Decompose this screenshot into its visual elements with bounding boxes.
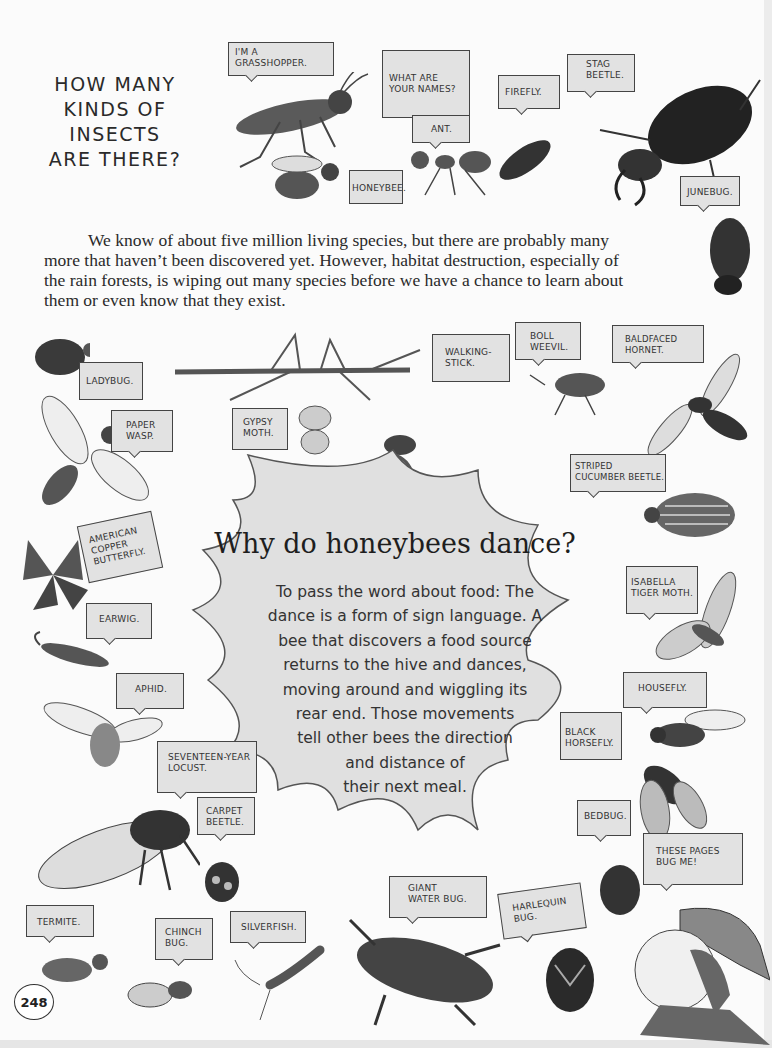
boy-illustration bbox=[620, 905, 770, 1045]
bubble-text: JUNEBUG. bbox=[687, 187, 733, 197]
speech-bubble-seventeen-year-locust: SEVENTEEN-YEAR LOCUST. bbox=[157, 741, 257, 793]
bubble-text: EARWIG. bbox=[99, 614, 140, 624]
speech-bubble-chinch-bug: CHINCH BUG. bbox=[155, 918, 213, 960]
junebug-illustration bbox=[695, 205, 765, 305]
speech-bubble-walking-stick: WALKING- STICK. bbox=[432, 334, 510, 382]
feature-body-line: returns to the hive and dances, bbox=[245, 653, 565, 677]
feature-body-line: bee that discovers a food source bbox=[245, 629, 565, 653]
feature-title: Why do honeybees dance? bbox=[200, 528, 590, 559]
bubble-text: ANT. bbox=[431, 124, 452, 134]
harlequin-bug-illustration bbox=[525, 930, 615, 1030]
page-edge-right bbox=[764, 0, 772, 1048]
walking-stick-illustration bbox=[170, 330, 430, 410]
speech-bubble-grasshopper: I'M A GRASSHOPPER. bbox=[228, 42, 334, 76]
speech-bubble-boy-these-pages: THESE PAGES BUG ME! bbox=[643, 833, 743, 885]
speech-bubble-junebug: JUNEBUG. bbox=[680, 176, 740, 206]
speech-bubble-gypsy-moth: GYPSY MOTH. bbox=[232, 408, 288, 450]
bubble-text: TERMITE. bbox=[37, 917, 81, 927]
bubble-text: STAG BEETLE. bbox=[586, 59, 624, 80]
speech-bubble-housefly: HOUSEFLY. bbox=[623, 672, 707, 708]
bubble-text: BALDFACED HORNET. bbox=[625, 334, 677, 355]
bubble-text: HONEYBEE. bbox=[352, 183, 406, 193]
feature-body-line: and distance of bbox=[245, 751, 565, 775]
speech-bubble-question: WHAT ARE YOUR NAMES? bbox=[382, 50, 470, 118]
feature-body-line: their next meal. bbox=[245, 775, 565, 799]
speech-bubble-termite: TERMITE. bbox=[26, 905, 94, 937]
bubble-text: GYPSY MOTH. bbox=[243, 417, 274, 438]
heading-line: INSECTS bbox=[30, 122, 200, 147]
speech-bubble-striped-cucumber-beetle: STRIPED CUCUMBER BEETLE. bbox=[570, 454, 666, 492]
speech-bubble-firefly: FIREFLY. bbox=[498, 75, 560, 109]
boll-weevil-illustration bbox=[525, 360, 615, 420]
speech-bubble-carpet-beetle: CARPET BEETLE. bbox=[197, 797, 255, 835]
bubble-text: THESE PAGES BUG ME! bbox=[656, 846, 720, 867]
speech-bubble-isabella-tiger-moth: ISABELLA TIGER MOTH. bbox=[626, 566, 698, 614]
speech-bubble-boll-weevil: BOLL WEEVIL. bbox=[515, 322, 581, 360]
feature-body: To pass the word about food: The dance i… bbox=[245, 580, 565, 800]
bubble-text: SILVERFISH. bbox=[241, 922, 297, 932]
feature-body-line: dance is a form of sign language. A bbox=[245, 604, 565, 628]
speech-bubble-silverfish: SILVERFISH. bbox=[230, 911, 306, 943]
bubble-text: BLACK HORSEFLY. bbox=[565, 727, 614, 748]
bubble-text: I'M A GRASSHOPPER. bbox=[235, 47, 307, 68]
bubble-text: GIANT WATER BUG. bbox=[408, 883, 467, 904]
bubble-text: STRIPED CUCUMBER BEETLE. bbox=[575, 461, 664, 482]
bubble-text: HARLEQUIN BUG. bbox=[512, 896, 568, 924]
speech-bubble-bedbug: BEDBUG. bbox=[577, 800, 631, 836]
speech-bubble-paper-wasp: PAPER WASP. bbox=[111, 410, 173, 452]
bubble-text: WHAT ARE YOUR NAMES? bbox=[389, 73, 456, 94]
speech-bubble-ant: ANT. bbox=[412, 115, 470, 143]
speech-bubble-earwig: EARWIG. bbox=[86, 603, 152, 639]
speech-bubble-ladybug: LADYBUG. bbox=[79, 362, 143, 400]
intro-paragraph: We know of about five million living spe… bbox=[44, 230, 644, 310]
bubble-text: AMERICAN COPPER BUTTERFLY. bbox=[88, 525, 147, 567]
heading-line: ARE THERE? bbox=[30, 147, 200, 172]
speech-bubble-baldfaced-hornet: BALDFACED HORNET. bbox=[612, 325, 704, 363]
speech-bubble-stag-beetle: STAG BEETLE. bbox=[567, 54, 635, 92]
speech-bubble-aphid: APHID. bbox=[116, 673, 184, 709]
seventeen-year-locust-illustration bbox=[30, 800, 200, 900]
feature-body-line: tell other bees the direction bbox=[245, 726, 565, 750]
american-copper-butterfly-illustration bbox=[18, 535, 88, 615]
feature-body-line: To pass the word about food: The bbox=[245, 580, 565, 604]
bubble-text: CARPET BEETLE. bbox=[206, 806, 244, 827]
bubble-text: SEVENTEEN-YEAR LOCUST. bbox=[168, 752, 250, 773]
feature-body-line: rear end. Those movements bbox=[245, 702, 565, 726]
page-number: 248 bbox=[14, 984, 54, 1020]
bubble-text: PAPER WASP. bbox=[126, 420, 155, 441]
heading-line: KINDS OF bbox=[30, 97, 200, 122]
ant-illustration bbox=[395, 140, 505, 200]
speech-bubble-honeybee: HONEYBEE. bbox=[349, 170, 403, 204]
speech-bubble-black-horsefly: BLACK HORSEFLY. bbox=[560, 712, 622, 760]
bubble-text: BEDBUG. bbox=[584, 811, 627, 821]
bubble-text: ISABELLA TIGER MOTH. bbox=[631, 577, 693, 598]
chinch-bug-illustration bbox=[115, 960, 215, 1020]
carpet-beetle-illustration bbox=[192, 850, 252, 910]
speech-bubble-american-copper-butterfly: AMERICAN COPPER BUTTERFLY. bbox=[77, 511, 163, 584]
silverfish-illustration bbox=[230, 930, 330, 1020]
bubble-text: BOLL WEEVIL. bbox=[530, 331, 568, 352]
bubble-text: WALKING- STICK. bbox=[445, 347, 492, 368]
bubble-text: LADYBUG. bbox=[86, 376, 134, 386]
giant-water-bug-illustration bbox=[345, 915, 505, 1030]
bubble-text: FIREFLY. bbox=[505, 87, 542, 97]
heading-line: HOW MANY bbox=[30, 72, 200, 97]
bubble-text: CHINCH BUG. bbox=[165, 927, 202, 948]
bubble-text: HOUSEFLY. bbox=[638, 683, 687, 693]
honeybee-illustration bbox=[262, 150, 352, 210]
feature-body-line: moving around and wiggling its bbox=[245, 678, 565, 702]
page-heading: HOW MANY KINDS OF INSECTS ARE THERE? bbox=[30, 72, 200, 172]
firefly-illustration bbox=[490, 115, 570, 195]
bubble-text: APHID. bbox=[135, 684, 167, 694]
speech-bubble-giant-water-bug: GIANT WATER BUG. bbox=[389, 876, 487, 918]
intro-text: We know of about five million living spe… bbox=[44, 230, 644, 310]
